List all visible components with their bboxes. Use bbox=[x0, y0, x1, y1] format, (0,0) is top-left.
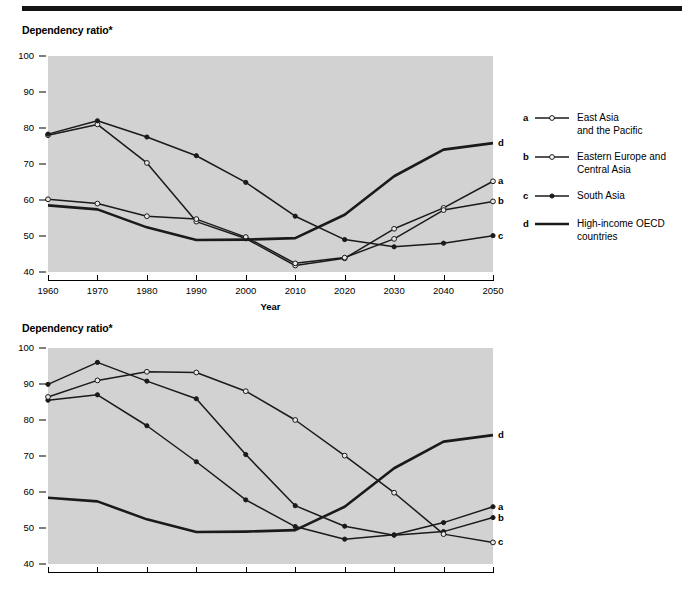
series-line-b bbox=[48, 199, 493, 263]
chart-panel-bottom: Dependency ratio* 405060708090100 abcd a… bbox=[0, 322, 683, 591]
y-axis-tick-label: 70 bbox=[23, 451, 34, 461]
x-axis-tick-mark bbox=[444, 275, 445, 281]
data-point-c-1980 bbox=[144, 369, 149, 374]
legend-key-letter: a bbox=[523, 112, 533, 124]
x-axis-tick-label: 2040 bbox=[433, 286, 454, 296]
data-point-c-2000 bbox=[244, 180, 248, 184]
y-axis-tick-label: 80 bbox=[23, 415, 34, 425]
legend-line-sample-icon bbox=[533, 190, 571, 202]
y-axis-tick-mark bbox=[39, 420, 46, 421]
x-axis-tick-label: 2010 bbox=[285, 286, 306, 296]
x-axis-tick-label: 2020 bbox=[334, 286, 355, 296]
y-axis-tick-mark bbox=[39, 528, 46, 529]
data-point-b-2010 bbox=[293, 261, 298, 266]
x-axis-tick-mark bbox=[295, 567, 296, 573]
series-line-c bbox=[48, 372, 493, 543]
x-axis-tick-label: 2030 bbox=[384, 286, 405, 296]
y-axis-tick-label: 90 bbox=[23, 87, 34, 97]
series-end-label-b: b bbox=[498, 513, 504, 523]
legend-line-sample-icon bbox=[533, 218, 571, 230]
data-point-a-2000 bbox=[244, 498, 248, 502]
y-axis-tick-mark bbox=[39, 272, 46, 273]
data-point-a-1990 bbox=[194, 460, 198, 464]
legend-label: High-income OECD countries bbox=[577, 218, 665, 243]
x-axis-tick-mark bbox=[48, 275, 49, 281]
y-axis-tick-mark bbox=[39, 56, 46, 57]
x-axis-line bbox=[48, 280, 493, 281]
y-axis-tick-label: 60 bbox=[23, 487, 34, 497]
series-end-label-d: d bbox=[498, 430, 504, 440]
x-axis-tick-mark bbox=[444, 567, 445, 573]
y-axis-tick-mark bbox=[39, 200, 46, 201]
legend-item-a: aEast Asia and the Pacific bbox=[523, 112, 683, 137]
data-point-c-2050 bbox=[491, 234, 495, 238]
data-point-b-2050 bbox=[491, 199, 496, 204]
x-axis-tick-mark bbox=[394, 275, 395, 281]
legend-line-sample-icon bbox=[533, 151, 571, 163]
series-line-d bbox=[48, 143, 493, 240]
x-axis-tick-mark bbox=[493, 567, 494, 573]
chart-panel-top: Dependency ratio* 405060708090100 196019… bbox=[0, 24, 683, 314]
data-point-c-2050 bbox=[491, 540, 496, 545]
data-point-c-1970 bbox=[95, 119, 99, 123]
data-point-a-1980 bbox=[144, 161, 149, 166]
data-point-c-2000 bbox=[243, 389, 248, 394]
series-end-label-c: c bbox=[498, 231, 503, 241]
y-axis-tick-label: 50 bbox=[23, 231, 34, 241]
y-axis-tick-mark bbox=[39, 492, 46, 493]
x-axis-tick-mark bbox=[246, 567, 247, 573]
legend-label: Eastern Europe and Central Asia bbox=[577, 151, 666, 176]
y-axis-tick-mark bbox=[39, 164, 46, 165]
legend-label: East Asia and the Pacific bbox=[577, 112, 643, 137]
data-point-b-2020 bbox=[343, 524, 347, 528]
series-line-c bbox=[48, 121, 493, 247]
data-point-b-1990 bbox=[194, 397, 198, 401]
data-point-c-2010 bbox=[293, 418, 298, 423]
x-axis-tick-mark bbox=[48, 567, 49, 573]
y-axis-tick-label: 60 bbox=[23, 195, 34, 205]
data-point-a-2030 bbox=[392, 226, 397, 231]
data-point-c-1980 bbox=[145, 135, 149, 139]
data-point-c-1960 bbox=[46, 132, 50, 136]
legend-line-sample-icon bbox=[533, 112, 571, 124]
series-line-b bbox=[48, 362, 493, 535]
x-axis-tick-mark bbox=[493, 275, 494, 281]
x-axis-tick-label: 1980 bbox=[136, 286, 157, 296]
top-rule-divider bbox=[22, 6, 682, 11]
y-axis-tick-mark bbox=[39, 128, 46, 129]
x-axis-tick-label: 1970 bbox=[87, 286, 108, 296]
x-axis-tick-label: 2050 bbox=[482, 286, 503, 296]
x-axis-tick-mark bbox=[295, 275, 296, 281]
y-axis-tick-label: 40 bbox=[23, 559, 34, 569]
chart-canvas bbox=[0, 24, 520, 314]
data-point-c-2040 bbox=[441, 241, 445, 245]
x-axis-tick-mark bbox=[345, 567, 346, 573]
x-axis-tick-mark bbox=[97, 567, 98, 573]
x-axis-title: Year bbox=[260, 301, 280, 312]
x-axis-tick-mark bbox=[196, 275, 197, 281]
x-axis-tick-mark bbox=[394, 567, 395, 573]
y-axis-tick-mark bbox=[39, 456, 46, 457]
data-point-b-2040 bbox=[441, 208, 446, 213]
x-axis-tick-label: 2000 bbox=[235, 286, 256, 296]
series-end-label-d: d bbox=[498, 138, 504, 148]
y-axis-tick-label: 90 bbox=[23, 379, 34, 389]
data-point-b-2030 bbox=[392, 236, 397, 241]
data-point-b-2000 bbox=[244, 452, 248, 456]
data-point-c-2020 bbox=[343, 238, 347, 242]
series-end-label-b: b bbox=[498, 197, 504, 207]
x-axis-tick-label: 1960 bbox=[37, 286, 58, 296]
series-end-label-a: a bbox=[498, 502, 503, 512]
series-line-a bbox=[48, 395, 493, 539]
data-point-a-2020 bbox=[343, 537, 347, 541]
chart-canvas bbox=[0, 322, 520, 591]
x-axis-line bbox=[48, 572, 493, 573]
legend-key-letter: b bbox=[523, 151, 533, 163]
x-axis-tick-mark bbox=[147, 275, 148, 281]
data-point-a-2050 bbox=[491, 179, 496, 184]
data-point-c-2030 bbox=[392, 490, 397, 495]
x-axis-tick-mark bbox=[345, 275, 346, 281]
chart-legend: aEast Asia and the PacificbEastern Europ… bbox=[523, 112, 683, 257]
y-axis-tick-label: 50 bbox=[23, 523, 34, 533]
data-point-a-1970 bbox=[95, 393, 99, 397]
